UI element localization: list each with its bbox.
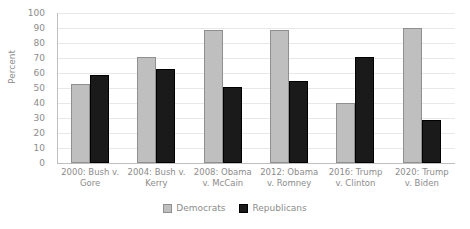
plot-area [57,13,455,163]
y-axis-tick-label: 0 [39,159,45,168]
bar-group [322,13,388,163]
bar-democrats-2[interactable] [204,30,223,164]
y-axis-tick-label: 50 [34,84,45,93]
x-axis-category-label: 2000: Bush v. Gore [57,167,123,189]
y-axis-tick-label: 70 [34,54,45,63]
bar-democrats-5[interactable] [403,28,422,163]
x-axis-category-labels: 2000: Bush v. Gore2004: Bush v. Kerry200… [57,167,455,189]
bar-democrats-3[interactable] [270,30,289,164]
x-axis-category-label: 2008: Obama v. McCain [190,167,256,189]
bar-democrats-1[interactable] [137,57,156,164]
x-axis-category-label: 2020: Trump v. Biden [389,167,455,189]
bar-group [256,13,322,163]
bar-group [389,13,455,163]
bar-democrats-0[interactable] [71,84,90,164]
y-axis-tick-labels: 1009080706050403020100 [0,13,52,163]
legend-swatch-icon [239,204,248,213]
x-axis-category-label: 2012: Obama v. Romney [256,167,322,189]
bar-republicans-3[interactable] [289,81,308,164]
y-axis-tick-label: 20 [34,129,45,138]
legend-item-republicans[interactable]: Republicans [239,203,306,213]
bar-chart: Percent 1009080706050403020100 2000: Bus… [0,0,470,229]
legend-swatch-icon [163,204,172,213]
y-axis-tick-label: 30 [34,114,45,123]
x-axis-category-label: 2016: Trump v. Clinton [322,167,388,189]
x-axis-category-label: 2004: Bush v. Kerry [123,167,189,189]
y-axis-tick-label: 40 [34,99,45,108]
bar-republicans-2[interactable] [223,87,242,164]
chart-legend: DemocratsRepublicans [0,203,470,213]
legend-label: Democrats [176,203,225,213]
y-axis-tick-label: 90 [34,24,45,33]
bar-republicans-4[interactable] [355,57,374,164]
bar-group [123,13,189,163]
y-axis-tick-label: 80 [34,39,45,48]
legend-label: Republicans [252,203,306,213]
bar-democrats-4[interactable] [336,103,355,163]
y-axis-tick-label: 60 [34,69,45,78]
legend-item-democrats[interactable]: Democrats [163,203,225,213]
bar-groups [57,13,455,163]
axis-baseline [57,163,455,164]
bar-republicans-1[interactable] [156,69,175,164]
bar-republicans-5[interactable] [422,120,441,164]
y-axis-tick-label: 10 [34,144,45,153]
y-axis-tick-label: 100 [28,9,45,18]
bar-republicans-0[interactable] [90,75,109,164]
bar-group [57,13,123,163]
bar-group [190,13,256,163]
